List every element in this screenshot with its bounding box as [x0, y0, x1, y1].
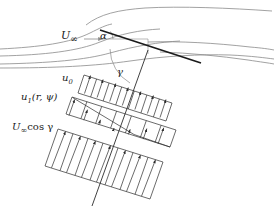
u0-arrow: [85, 76, 91, 94]
uinf-arrows-group: [52, 131, 156, 196]
u0-divider: [103, 83, 109, 101]
label-freestream-velocity: U∞: [61, 30, 78, 44]
streamline-4: [0, 41, 180, 64]
u0-arrows-group: [85, 76, 167, 118]
u0-divider: [116, 87, 122, 105]
u1-arrow: [99, 120, 101, 125]
diagram-canvas: [0, 0, 275, 215]
label-u0-subscript: 0: [68, 78, 72, 86]
uinf-divider: [75, 138, 88, 175]
alpha-reference-lines: [103, 39, 148, 54]
u1-divider: [155, 125, 161, 142]
uinf-arrow: [82, 141, 96, 177]
u0-divider: [128, 91, 134, 109]
uinf-arrow: [127, 155, 141, 191]
uinf-divider: [90, 143, 103, 180]
u1-profile-group: [66, 97, 176, 147]
label-angle-gamma: γ: [117, 67, 123, 77]
u1-arrow: [84, 110, 88, 121]
label-freestream-subscript: ∞: [70, 34, 78, 44]
label-normal-component: U∞cos γ: [12, 122, 53, 134]
uinf-arrow: [97, 146, 111, 182]
u0-arrow: [122, 88, 128, 106]
label-angle-alpha: α: [100, 31, 107, 41]
label-ucos-rest: cos γ: [27, 121, 53, 132]
u0-divider: [141, 95, 147, 113]
streamline-7: [0, 55, 274, 68]
label-u1-arguments: (r, ψ): [32, 91, 58, 102]
streamlines-group: [0, 7, 274, 68]
streamline-2: [0, 24, 112, 49]
label-axial-velocity: u0: [62, 73, 73, 86]
u1-divider: [140, 121, 146, 138]
streamline-5: [148, 42, 274, 50]
uinf-divider: [60, 134, 73, 171]
uinf-arrow: [52, 131, 66, 167]
uinf-arrow: [112, 150, 126, 186]
u1-arrow: [69, 99, 75, 115]
uinf-arrow: [142, 160, 156, 196]
u1-arrow: [143, 129, 147, 140]
u0-divider: [153, 99, 159, 117]
u1-envelope-right: [134, 135, 170, 148]
u1-divider: [111, 111, 117, 128]
u0-arrow: [110, 84, 116, 102]
uinf-arrow: [67, 136, 81, 172]
uinf-divider: [135, 157, 148, 194]
label-perturbation-velocity: u1(r, ψ): [21, 92, 57, 105]
u0-arrow: [97, 80, 103, 98]
uinf-divider: [120, 153, 133, 190]
u0-arrow: [147, 96, 153, 114]
streamline-1: [86, 7, 272, 25]
uinf-divider: [105, 148, 118, 185]
u1-divider: [125, 116, 131, 133]
velocity-diagram-figure: U∞ α γ u0 u1(r, ψ) U∞cos γ: [0, 0, 275, 215]
label-freestream-main: U: [61, 29, 70, 42]
u0-divider: [91, 79, 97, 97]
streamline-6: [160, 52, 274, 64]
u0-arrow: [135, 92, 141, 110]
u1-arrow: [158, 128, 164, 144]
u0-arrow: [160, 100, 166, 118]
